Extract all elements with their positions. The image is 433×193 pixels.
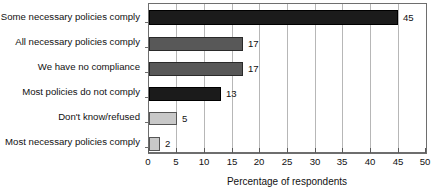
x-tick-label-1: 5 [164, 156, 188, 167]
x-tick-mark-8 [370, 148, 371, 153]
x-tick-mark-3 [232, 148, 233, 153]
x-tick-mark-9 [398, 148, 399, 153]
x-tick-mark-1 [176, 148, 177, 153]
x-tick-mark-10 [425, 148, 426, 153]
category-axis-labels: Some necessary policies comply All neces… [0, 0, 144, 152]
category-label-2: We have no compliance [0, 61, 140, 72]
category-label-5: Most necessary policies comply [0, 136, 140, 147]
x-tick-mark-6 [315, 148, 316, 153]
bar-chart: Some necessary policies comply All neces… [0, 0, 433, 193]
x-tick-label-7: 35 [330, 156, 354, 167]
x-tick-label-3: 15 [220, 156, 244, 167]
bar-3 [149, 87, 221, 101]
gridline-5 [176, 4, 177, 153]
bar-value-4: 5 [182, 114, 187, 124]
bar-value-0: 45 [403, 13, 414, 23]
gridline-35 [342, 4, 343, 153]
bar-2 [149, 62, 243, 76]
x-tick-label-6: 30 [303, 156, 327, 167]
gridline-45 [398, 4, 399, 153]
bar-value-2: 17 [248, 64, 259, 74]
bar-0 [149, 10, 398, 25]
bar-5 [149, 137, 160, 151]
plot-area: 45 17 17 13 5 2 [148, 3, 427, 154]
gridline-30 [315, 4, 316, 153]
category-label-1: All necessary policies comply [0, 36, 140, 47]
bar-value-1: 17 [248, 39, 259, 49]
x-tick-mark-4 [259, 148, 260, 153]
category-label-4: Don't know/refused [0, 111, 140, 122]
bar-value-3: 13 [226, 89, 237, 99]
x-tick-label-4: 20 [247, 156, 271, 167]
bar-1 [149, 37, 243, 51]
gridline-40 [370, 4, 371, 153]
gridline-25 [287, 4, 288, 153]
x-tick-mark-0 [148, 148, 149, 153]
x-tick-mark-5 [287, 148, 288, 153]
x-tick-label-8: 40 [358, 156, 382, 167]
x-tick-mark-7 [342, 148, 343, 153]
x-tick-label-5: 25 [275, 156, 299, 167]
x-tick-label-2: 10 [192, 156, 216, 167]
gridline-20 [259, 4, 260, 153]
gridline-10 [204, 4, 205, 153]
bar-value-5: 2 [165, 139, 170, 149]
x-tick-label-10: 50 [413, 156, 433, 167]
x-axis-title: Percentage of respondents [148, 176, 426, 188]
bar-4 [149, 112, 177, 125]
gridline-15 [232, 4, 233, 153]
category-label-0: Some necessary policies comply [0, 11, 140, 22]
x-tick-mark-2 [204, 148, 205, 153]
x-tick-label-0: 0 [136, 156, 160, 167]
x-tick-label-9: 45 [386, 156, 410, 167]
category-label-3: Most policies do not comply [0, 86, 140, 97]
